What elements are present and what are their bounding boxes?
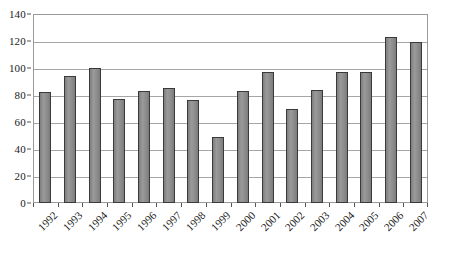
x-tick-mark-2000: [231, 203, 232, 207]
bar-chart: 020406080100120140 199219931994199519961…: [0, 0, 456, 260]
x-tick-label-1998: 1998: [178, 209, 208, 239]
x-tick-mark-1998: [181, 203, 182, 207]
x-tick-mark-1996: [132, 203, 133, 207]
bar-1995: [113, 99, 125, 203]
bar-1996: [138, 91, 150, 203]
y-tick-mark-40: [27, 149, 31, 150]
bar-2006: [385, 37, 397, 203]
y-tick-label-60: 60: [15, 117, 26, 128]
bar-2007: [410, 42, 422, 203]
y-tick-mark-140: [27, 14, 31, 15]
x-tick-mark-1992: [33, 203, 34, 207]
bar-2000: [237, 91, 249, 203]
y-tick-label-80: 80: [15, 90, 26, 101]
x-tick-mark-2007: [403, 203, 404, 207]
x-tick-label-2000: 2000: [228, 209, 258, 239]
x-tick-label-2003: 2003: [302, 209, 332, 239]
bar-1999: [212, 137, 224, 203]
x-axis: 1992199319941995199619971998199920002001…: [33, 203, 428, 260]
x-tick-mark-1999: [206, 203, 207, 207]
bar-1997: [163, 88, 175, 203]
x-tick-mark-2003: [305, 203, 306, 207]
y-tick-label-100: 100: [9, 63, 26, 74]
x-tick-label-1992: 1992: [30, 209, 60, 239]
bars-group: [33, 14, 428, 203]
bar-2001: [262, 72, 274, 203]
y-tick-mark-100: [27, 68, 31, 69]
x-tick-label-2005: 2005: [351, 209, 381, 239]
y-tick-mark-120: [27, 41, 31, 42]
bar-1992: [39, 92, 51, 203]
y-tick-label-140: 140: [9, 9, 26, 20]
y-tick-label-40: 40: [15, 144, 26, 155]
y-tick-mark-80: [27, 95, 31, 96]
x-tick-label-1999: 1999: [203, 209, 233, 239]
x-tick-label-2006: 2006: [376, 209, 406, 239]
x-tick-label-2001: 2001: [252, 209, 282, 239]
x-tick-label-1997: 1997: [154, 209, 184, 239]
bar-2003: [311, 90, 323, 203]
x-tick-mark-2001: [255, 203, 256, 207]
y-tick-label-0: 0: [20, 198, 26, 209]
x-tick-mark-1997: [156, 203, 157, 207]
y-tick-mark-60: [27, 122, 31, 123]
x-tick-label-1994: 1994: [80, 209, 110, 239]
x-tick-label-2004: 2004: [326, 209, 356, 239]
y-tick-mark-20: [27, 176, 31, 177]
x-tick-label-1996: 1996: [129, 209, 159, 239]
x-tick-mark-1995: [107, 203, 108, 207]
x-tick-mark-end: [427, 203, 428, 207]
x-tick-mark-1994: [82, 203, 83, 207]
x-tick-mark-2005: [354, 203, 355, 207]
x-tick-mark-2006: [379, 203, 380, 207]
bar-1993: [64, 76, 76, 203]
x-tick-mark-1993: [58, 203, 59, 207]
y-axis: 020406080100120140: [0, 14, 31, 203]
bar-1998: [187, 100, 199, 203]
bar-1994: [89, 68, 101, 203]
x-tick-label-1995: 1995: [104, 209, 134, 239]
y-tick-label-20: 20: [15, 171, 26, 182]
x-tick-label-1993: 1993: [55, 209, 85, 239]
bar-2005: [360, 72, 372, 203]
x-tick-mark-2002: [280, 203, 281, 207]
bar-2004: [336, 72, 348, 203]
bar-2002: [286, 109, 298, 204]
x-tick-label-2002: 2002: [277, 209, 307, 239]
y-tick-mark-0: [27, 203, 31, 204]
y-tick-label-120: 120: [9, 36, 26, 47]
x-tick-label-2007: 2007: [400, 209, 430, 239]
x-tick-mark-2004: [329, 203, 330, 207]
